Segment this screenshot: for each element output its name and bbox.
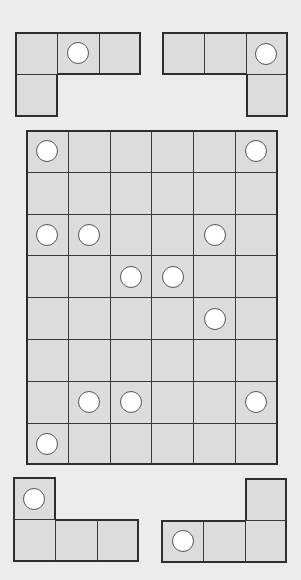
board-cell[interactable] [68,423,111,466]
board-cell[interactable] [235,297,278,340]
disc [245,391,267,413]
board-cell[interactable] [26,297,69,340]
board-cell[interactable] [110,339,153,382]
board-cell[interactable] [193,214,236,257]
disc [204,308,226,330]
disc [255,43,277,65]
board-cell[interactable] [110,423,153,466]
disc [23,488,45,510]
piece-cell[interactable] [245,478,288,521]
board-cell[interactable] [68,172,111,215]
disc [204,224,226,246]
disc [120,391,142,413]
board-cell[interactable] [235,214,278,257]
disc [162,266,184,288]
board-cell[interactable] [235,172,278,215]
piece-cell[interactable] [203,520,246,563]
board-cell[interactable] [151,172,194,215]
board-cell[interactable] [235,381,278,424]
board-cell[interactable] [193,423,236,466]
board-cell[interactable] [193,255,236,298]
board-cell[interactable] [151,297,194,340]
board-cell[interactable] [110,214,153,257]
board-cell[interactable] [26,255,69,298]
piece-cell[interactable] [15,32,58,75]
piece-cell[interactable] [245,520,288,563]
board-cell[interactable] [26,381,69,424]
board-cell[interactable] [68,130,111,173]
piece-cell[interactable] [246,74,289,117]
disc [36,140,58,162]
board-cell[interactable] [193,297,236,340]
board-cell[interactable] [110,381,153,424]
board-cell[interactable] [151,130,194,173]
board-cell[interactable] [235,339,278,382]
board-cell[interactable] [68,297,111,340]
disc [36,433,58,455]
board-cell[interactable] [151,339,194,382]
disc [36,224,58,246]
board-cell[interactable] [68,381,111,424]
board-cell[interactable] [110,130,153,173]
board-cell[interactable] [68,339,111,382]
board-cell[interactable] [151,255,194,298]
board-cell[interactable] [110,297,153,340]
board-cell[interactable] [193,172,236,215]
piece-cell[interactable] [97,519,140,562]
board-cell[interactable] [26,172,69,215]
disc [78,224,100,246]
board-cell[interactable] [151,381,194,424]
game-board [26,130,277,464]
board-cell[interactable] [151,214,194,257]
board-cell[interactable] [193,130,236,173]
board-cell[interactable] [110,255,153,298]
piece-cell[interactable] [99,32,142,75]
board-cell[interactable] [193,381,236,424]
board-cell[interactable] [235,130,278,173]
board-cell[interactable] [193,339,236,382]
piece-cell[interactable] [13,477,56,520]
disc [172,530,194,552]
piece-cell[interactable] [162,32,205,75]
board-cell[interactable] [26,423,69,466]
disc [245,140,267,162]
board-cell[interactable] [26,130,69,173]
piece-cell[interactable] [13,519,56,562]
board-cell[interactable] [110,172,153,215]
board-cell[interactable] [68,255,111,298]
disc [78,391,100,413]
disc [120,266,142,288]
disc [67,42,89,64]
board-cell[interactable] [26,214,69,257]
piece-cell[interactable] [204,32,247,75]
board-cell[interactable] [26,339,69,382]
piece-cell[interactable] [57,32,100,75]
piece-cell[interactable] [55,519,98,562]
board-cell[interactable] [235,423,278,466]
piece-cell[interactable] [246,32,289,75]
board-cell[interactable] [151,423,194,466]
piece-cell[interactable] [161,520,204,563]
board-cell[interactable] [235,255,278,298]
piece-cell[interactable] [15,74,58,117]
board-cell[interactable] [68,214,111,257]
